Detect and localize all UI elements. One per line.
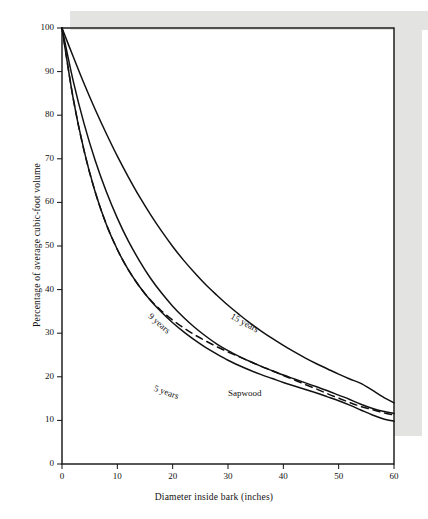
x-tick-label: 20 bbox=[160, 471, 186, 481]
x-tick-label: 0 bbox=[49, 471, 75, 481]
x-tick-label: 50 bbox=[326, 471, 352, 481]
x-tick-label: 60 bbox=[381, 471, 407, 481]
curve-label-sapwood: Sapwood bbox=[228, 388, 262, 398]
x-tick-label: 30 bbox=[215, 471, 241, 481]
curve-15-years bbox=[62, 28, 394, 403]
x-tick-label: 40 bbox=[270, 471, 296, 481]
chart-plot-area bbox=[0, 0, 428, 519]
figure-container: 0102030405060708090100 0102030405060 15 … bbox=[0, 0, 428, 519]
plot-border bbox=[62, 28, 394, 464]
y-tick-label: 90 bbox=[28, 66, 54, 76]
curve-9-years bbox=[62, 28, 394, 413]
data-curves bbox=[62, 28, 394, 421]
x-axis-title: Diameter inside bark (inches) bbox=[0, 492, 428, 502]
y-tick-label: 10 bbox=[28, 414, 54, 424]
curve-5-years bbox=[62, 28, 394, 421]
plot-frame bbox=[62, 28, 394, 464]
x-tick-label: 10 bbox=[104, 471, 130, 481]
y-tick-label: 100 bbox=[28, 22, 54, 32]
curve-sapwood bbox=[62, 28, 394, 415]
y-axis-title: Percentage of average cubic-foot volume bbox=[32, 115, 42, 375]
y-tick-label: 0 bbox=[28, 458, 54, 468]
